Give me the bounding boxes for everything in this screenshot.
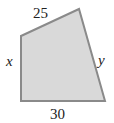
quadrilateral-shape	[21, 9, 105, 101]
bottom-side-label: 30	[50, 106, 65, 122]
right-side-label: y	[96, 52, 105, 68]
left-side-label: x	[5, 53, 13, 69]
quadrilateral-diagram: 25 x y 30	[0, 0, 114, 123]
top-side-label: 25	[33, 5, 48, 21]
